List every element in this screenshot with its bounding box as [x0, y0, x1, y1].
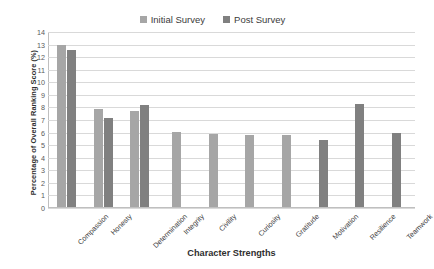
- legend-label: Initial Survey: [151, 14, 205, 25]
- y-tick-label: 2: [31, 178, 45, 187]
- bar-0[interactable]: [172, 132, 181, 207]
- bar-1[interactable]: [67, 50, 76, 207]
- bar-group: [121, 31, 158, 207]
- x-tick-label: Resilience: [368, 212, 398, 242]
- bar-group: [342, 31, 379, 207]
- legend-swatch-icon: [140, 16, 147, 23]
- bar-0[interactable]: [282, 135, 291, 207]
- bar-group: [268, 31, 305, 207]
- bar-group: [378, 31, 415, 207]
- y-tick-label: 10: [31, 78, 45, 87]
- bar-group: [195, 31, 232, 207]
- y-tick-label: 11: [31, 65, 45, 74]
- bar-group: [305, 31, 342, 207]
- y-tick-label: 5: [31, 141, 45, 150]
- x-tick-label: Civility: [217, 212, 238, 233]
- x-tick-label: Compassion: [76, 212, 111, 247]
- x-axis-title: Character Strengths: [48, 248, 415, 258]
- bar-0[interactable]: [245, 135, 254, 207]
- y-tick-label: 3: [31, 166, 45, 175]
- x-tick-label: Motivation: [331, 212, 361, 242]
- y-tick-label: 4: [31, 153, 45, 162]
- x-tick-label: Curiosity: [256, 212, 282, 238]
- bar-1[interactable]: [140, 105, 149, 207]
- legend-entry-1[interactable]: Post Survey: [223, 14, 285, 25]
- y-tick-label: 1: [31, 191, 45, 200]
- legend-swatch-icon: [223, 16, 230, 23]
- y-tick-label: 0: [31, 204, 45, 213]
- y-tick-label: 9: [31, 90, 45, 99]
- chart-legend: Initial SurveyPost Survey: [0, 14, 425, 25]
- x-tick-label: Gratitude: [293, 212, 320, 239]
- bar-1[interactable]: [319, 140, 328, 207]
- y-tick-label: 7: [31, 116, 45, 125]
- x-tick-label: Honesty: [109, 212, 134, 237]
- bar-group: [158, 31, 195, 207]
- x-tick-label: Teamwork: [404, 212, 434, 242]
- y-tick-label: 6: [31, 128, 45, 137]
- legend-entry-0[interactable]: Initial Survey: [140, 14, 205, 25]
- plot-area: [48, 32, 415, 208]
- y-tick-label: 12: [31, 53, 45, 62]
- y-tick-label: 8: [31, 103, 45, 112]
- y-tick-label: 14: [31, 28, 45, 37]
- bar-1[interactable]: [392, 133, 401, 207]
- gridline: [48, 208, 415, 209]
- bar-0[interactable]: [209, 134, 218, 207]
- bar-group: [232, 31, 269, 207]
- bar-1[interactable]: [104, 118, 113, 207]
- bar-0[interactable]: [130, 111, 139, 207]
- bar-group: [85, 31, 122, 207]
- bar-group: [48, 31, 85, 207]
- y-tick-label: 13: [31, 40, 45, 49]
- legend-label: Post Survey: [234, 14, 285, 25]
- bar-1[interactable]: [355, 104, 364, 207]
- bar-0[interactable]: [57, 45, 66, 207]
- bar-0[interactable]: [94, 109, 103, 207]
